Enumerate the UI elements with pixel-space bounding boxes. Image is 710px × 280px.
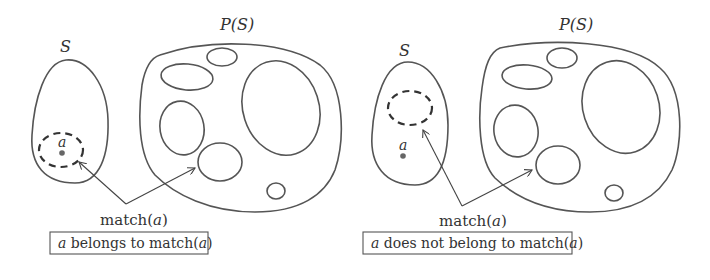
panel-left: S a P(S) match(a) a belongs to match(a): [32, 15, 341, 254]
subset-oval: [501, 63, 553, 91]
set-s-label: S: [399, 41, 410, 60]
match-subset-dashed: [388, 91, 432, 125]
match-a-label: match(a): [439, 212, 507, 230]
powerset-label: P(S): [219, 15, 254, 34]
subset-oval: [490, 102, 542, 161]
arrow-to-powerset-element: [462, 170, 532, 206]
subset-oval: [156, 98, 209, 159]
set-s-shape: [372, 62, 448, 185]
subset-oval: [570, 51, 671, 164]
powerset-shape: [140, 44, 341, 212]
diagram-canvas: S a P(S) match(a) a belongs to match(a) …: [0, 0, 710, 280]
subset-oval: [547, 48, 577, 68]
subset-oval: [536, 146, 580, 184]
element-a-label: a: [399, 137, 407, 153]
element-a-point: [59, 150, 65, 156]
subset-oval: [267, 183, 285, 199]
subset-oval: [198, 143, 242, 181]
subset-oval: [605, 185, 623, 201]
panel-right: S a P(S) match(a) a does not belong to m…: [363, 15, 680, 254]
arrow-to-dashed-subset: [423, 130, 462, 206]
subset-oval: [230, 51, 332, 166]
set-s-shape: [32, 60, 108, 183]
subset-oval: [207, 48, 237, 66]
powerset-label: P(S): [558, 15, 593, 34]
element-a-point: [400, 153, 406, 159]
caption-left: a belongs to match(a): [58, 235, 212, 251]
arrow-to-dashed-subset: [79, 162, 126, 204]
set-s-label: S: [60, 37, 71, 56]
arrow-to-powerset-element: [126, 168, 195, 204]
caption-right: a does not belong to match(a): [371, 235, 583, 251]
match-a-label: match(a): [100, 211, 168, 229]
subset-oval: [160, 62, 214, 92]
element-a-label: a: [58, 134, 66, 150]
